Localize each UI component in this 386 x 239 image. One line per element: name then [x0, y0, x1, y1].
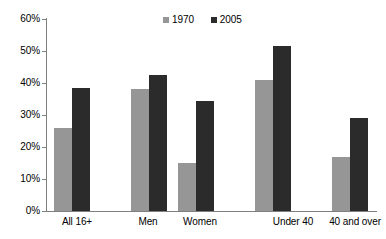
plot-area [47, 19, 377, 211]
y-tick-label-10: 10% [0, 174, 40, 184]
bar-1970-under-40 [255, 80, 273, 211]
bar-chart: 1970 2005 60% 50% 40% 30% 20% 10% 0% [0, 0, 386, 239]
y-axis-tick-labels: 60% 50% 40% 30% 20% 10% 0% [0, 0, 40, 239]
y-tick-mark-60 [42, 19, 46, 20]
x-label-women: Women [167, 216, 233, 227]
y-tick-label-30: 30% [0, 110, 40, 120]
bar-2005-40-and-over [350, 118, 368, 211]
y-tick-label-40: 40% [0, 78, 40, 88]
x-label-all-16-plus: All 16+ [42, 216, 112, 227]
bar-1970-all-16-plus [54, 128, 72, 211]
y-tick-mark-10 [42, 179, 46, 180]
y-tick-label-50: 50% [0, 46, 40, 56]
x-axis-line [46, 211, 377, 212]
y-tick-mark-40 [42, 83, 46, 84]
bar-2005-men [149, 75, 167, 211]
bar-1970-women [178, 163, 196, 211]
bar-2005-women [196, 101, 214, 211]
y-tick-label-0: 0% [0, 206, 40, 216]
bar-1970-men [131, 89, 149, 211]
bar-2005-all-16-plus [72, 88, 90, 211]
y-tick-mark-30 [42, 115, 46, 116]
y-tick-mark-0 [42, 211, 46, 212]
y-tick-mark-20 [42, 147, 46, 148]
x-label-40-and-over: 40 and over [319, 216, 386, 227]
bar-1970-40-and-over [332, 157, 350, 211]
y-tick-label-20: 20% [0, 142, 40, 152]
y-tick-mark-50 [42, 51, 46, 52]
bar-2005-under-40 [273, 46, 291, 211]
y-tick-label-60: 60% [0, 14, 40, 24]
